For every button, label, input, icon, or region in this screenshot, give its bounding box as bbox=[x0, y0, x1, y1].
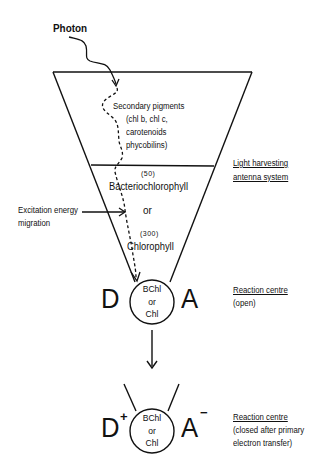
antenna-system-label: antenna system bbox=[233, 172, 288, 182]
diagram-lines bbox=[0, 0, 322, 470]
bacteriochlorophyll-count: (50) bbox=[141, 170, 155, 178]
rc-closed-state-line1: (closed after primary bbox=[233, 425, 304, 435]
donor-open: D bbox=[101, 283, 120, 315]
rc-closed-core-line1: BChl bbox=[138, 413, 167, 424]
bacteriochlorophyll-label: Bacteriochlorophyll bbox=[109, 180, 188, 193]
donor-charge: + bbox=[120, 409, 128, 425]
rc-open-core-line1: BChl bbox=[138, 284, 167, 295]
secondary-pigments-line3: carotenoids bbox=[126, 127, 166, 137]
photosynthesis-antenna-diagram: Photon Secondary pigments (chl b, chl c,… bbox=[0, 0, 322, 470]
acceptor-closed: A bbox=[181, 412, 198, 444]
donor-closed: D bbox=[101, 412, 120, 444]
excitation-energy-label: Excitation energy bbox=[18, 205, 78, 215]
acceptor-charge: − bbox=[200, 405, 208, 421]
transition-arrow bbox=[147, 330, 157, 368]
light-harvesting-label: Light harvesting bbox=[233, 158, 288, 168]
chlorophyll-count: (300) bbox=[140, 230, 159, 238]
secondary-pigments-line2: (chl b, chl c, bbox=[126, 114, 168, 124]
excitation-arrow bbox=[82, 208, 125, 216]
migration-label: migration bbox=[18, 218, 50, 228]
rc-closed-title: Reaction centre bbox=[233, 412, 288, 422]
acceptor-open: A bbox=[181, 283, 198, 315]
photon-arrow bbox=[69, 37, 119, 86]
antenna-or-label: or bbox=[143, 205, 152, 217]
rc-open-title: Reaction centre bbox=[233, 285, 288, 295]
secondary-pigments-label: Secondary pigments bbox=[113, 101, 184, 111]
rc-closed-core-line3: Chl bbox=[138, 438, 167, 449]
closed-funnel-stubs bbox=[124, 384, 179, 411]
rc-closed-state-line2: electron transfer) bbox=[233, 438, 292, 448]
rc-open-core-line2: or bbox=[138, 297, 167, 308]
rc-closed-core-line2: or bbox=[138, 426, 167, 437]
rc-open-state: (open) bbox=[233, 298, 256, 308]
rc-open-core-line3: Chl bbox=[138, 309, 167, 320]
secondary-pigments-line4: phycobilins) bbox=[126, 140, 167, 150]
photon-label: Photon bbox=[53, 22, 87, 35]
chlorophyll-label: Chlorophyll bbox=[127, 240, 174, 253]
